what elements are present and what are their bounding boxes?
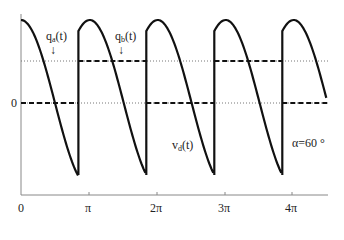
x-tick-4pi: 4π — [285, 202, 297, 214]
qa-arrow-icon: ↓ — [50, 44, 56, 56]
x-tick-3pi: 3π — [218, 202, 230, 214]
x-tick-0: 0 — [18, 202, 24, 214]
qb-arrow-icon: ↓ — [118, 44, 124, 56]
y-zero-label: 0 — [11, 97, 17, 109]
vd-label: vd(t) — [172, 139, 193, 153]
q-dashed-lines — [21, 61, 327, 103]
x-tick-pi: π — [85, 202, 91, 214]
qa-label: qa(t) — [46, 30, 67, 44]
alpha-label: α=60 ° — [292, 137, 325, 149]
x-tick-2pi: 2π — [150, 202, 162, 214]
qb-label: qb(t) — [115, 30, 136, 44]
